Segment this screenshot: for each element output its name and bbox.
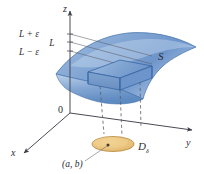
tick-label-lower: L − ε: [18, 47, 39, 57]
limit-diagram-svg: S z y x 0 L + ε L: [0, 0, 204, 174]
disk-group: [92, 137, 134, 152]
x-axis-label: x: [10, 147, 16, 158]
y-axis-line: [70, 113, 192, 130]
y-axis-group: [70, 113, 192, 130]
origin-label: 0: [58, 104, 63, 115]
x-axis-group: [24, 113, 70, 153]
y-axis-label: y: [185, 137, 191, 148]
z-axis-label: z: [62, 3, 67, 14]
surface-label: S: [158, 50, 164, 62]
figure-container: S z y x 0 L + ε L: [0, 0, 204, 174]
x-axis-line: [24, 113, 70, 153]
center-point-label: (a, b): [62, 159, 83, 170]
disk-label-subscript: δ: [146, 148, 149, 154]
disk-label: D: [137, 140, 146, 152]
tick-label-middle: L: [48, 38, 54, 48]
disk-inner-shade: [94, 137, 128, 148]
tick-label-upper: L + ε: [18, 29, 39, 39]
